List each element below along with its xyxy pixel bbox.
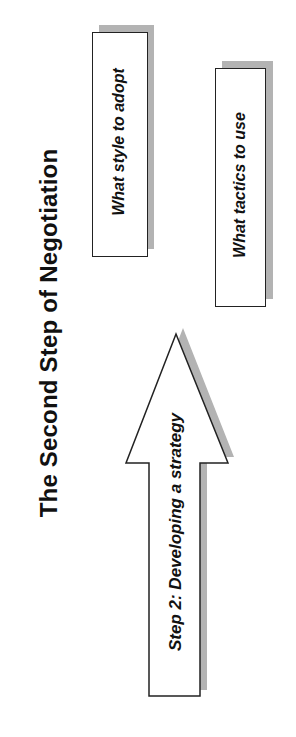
step-arrow	[0, 0, 296, 737]
step-arrow-label: Step 2: Developing a strategy	[166, 413, 186, 651]
